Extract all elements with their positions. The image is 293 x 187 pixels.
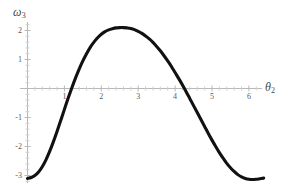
x-tick-label: 1 [62,93,66,101]
axes-group [20,22,262,183]
y-axis-label: ω3 [13,6,26,20]
x-axis-label: θ2 [265,81,275,95]
y-tick-label: -3 [15,172,22,180]
x-tick-label: 3 [136,93,140,101]
data-series-curve [28,28,264,180]
x-tick-label: 4 [173,93,177,101]
y-tick-label: 1 [18,56,22,64]
x-tick-label: 5 [210,93,214,101]
x-tick-label: 6 [247,93,251,101]
y-tick-label: 2 [18,27,22,35]
y-axis-label-subscript: 3 [21,11,25,20]
x-tick-label: 2 [99,93,103,101]
y-tick-label: -1 [15,114,22,122]
y-tick-label: -2 [15,143,22,151]
chart-container: ω3 θ2 123456 21-1-2-3 [0,0,293,187]
x-axis-label-subscript: 2 [271,86,275,95]
